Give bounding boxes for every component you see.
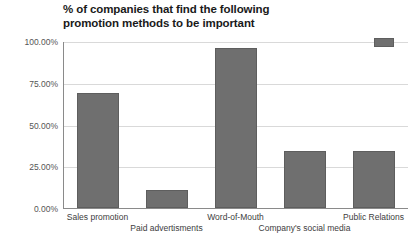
y-axis-tick-label: 25.00% [0, 162, 58, 172]
x-axis-tick-labels: Sales promotionPaid advertismentsWord-of… [0, 210, 412, 250]
bar [215, 48, 257, 208]
x-axis-tick-label: Public Relations [343, 212, 404, 222]
bar-chart: % of companies that find the following p… [0, 0, 412, 251]
chart-legend [374, 38, 397, 47]
legend-color-swatch [374, 38, 394, 47]
bar [353, 151, 395, 208]
bar [146, 190, 188, 208]
chart-title: % of companies that find the following p… [63, 2, 363, 30]
y-axis-tick-label: 75.00% [0, 79, 58, 89]
y-axis-tick-label: 50.00% [0, 121, 58, 131]
y-axis-tick-label: 100.00% [0, 37, 58, 47]
bar-series [63, 42, 408, 209]
y-axis-line [63, 42, 64, 209]
x-axis-line [63, 208, 408, 209]
plot-area [63, 42, 408, 209]
x-axis-tick-label: Sales promotion [67, 212, 128, 222]
x-axis-tick-label: Word-of-Mouth [207, 212, 264, 222]
x-axis-tick-label: Paid advertisments [130, 223, 202, 233]
bar [284, 151, 326, 208]
bar [77, 93, 119, 208]
x-axis-tick-label: Company's social media [259, 223, 351, 233]
chart-title-line-1: % of companies that find the following [63, 3, 269, 15]
chart-title-line-2: promotion methods to be important [63, 17, 255, 29]
